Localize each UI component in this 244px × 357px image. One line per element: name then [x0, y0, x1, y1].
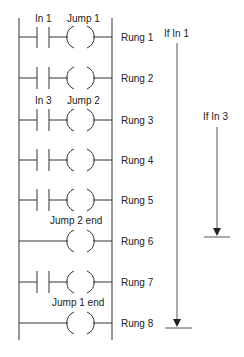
rung-1: In 1 Jump 1 Rung 1: [19, 13, 154, 48]
rung-label: Rung 8: [121, 318, 154, 329]
rung-label: Rung 6: [121, 236, 154, 247]
rung-label: Rung 3: [121, 115, 154, 126]
arrow-label: If In 3: [203, 111, 228, 122]
coil-label: Jump 2: [67, 95, 100, 106]
arrow-down-icon: [173, 319, 181, 327]
coil-label: Jump 1: [67, 13, 100, 24]
contact-label: In 3: [35, 95, 52, 106]
arrow-down-icon: [213, 228, 221, 236]
rung-5: Rung 5: [19, 189, 154, 211]
rung-label: Rung 2: [121, 73, 154, 84]
rung-label: Rung 7: [121, 277, 154, 288]
rung-3: In 3 Jump 2 Rung 3: [19, 95, 154, 131]
rung-7: Rung 7: [19, 271, 154, 293]
jump-arrow-if-in-1: If In 1: [164, 28, 192, 328]
coil-label: Jump 2 end: [50, 215, 102, 226]
contact-label: In 1: [35, 13, 52, 24]
rung-label: Rung 1: [121, 32, 154, 43]
rung-label: Rung 4: [121, 155, 154, 166]
rung-6: Jump 2 end Rung 6: [19, 215, 154, 252]
ladder-diagram: In 1 Jump 1 Rung 1 Rung 2 In 3 Jump 2 Ru…: [0, 0, 244, 357]
coil-label: Jump 1 end: [52, 297, 104, 308]
rung-4: Rung 4: [19, 149, 154, 171]
arrow-label: If In 1: [164, 28, 189, 39]
rung-label: Rung 5: [121, 195, 154, 206]
jump-arrow-if-in-3: If In 3: [203, 111, 230, 237]
rung-2: Rung 2: [19, 67, 154, 89]
rung-8: Jump 1 end Rung 8: [19, 297, 154, 334]
